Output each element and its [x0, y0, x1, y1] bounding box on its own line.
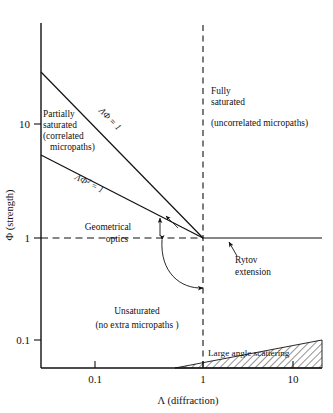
transition-curved-arrow — [162, 240, 203, 288]
y-tick-label-1: 1 — [25, 232, 31, 244]
partially-saturated-line4: micropaths) — [50, 142, 95, 153]
rytov-extension-annotation: Rytov extension — [229, 242, 271, 277]
y-tick-label-0: 10 — [19, 118, 31, 130]
y-tick-label-2: 0.1 — [16, 334, 30, 346]
partially-saturated-line1: Partially — [43, 109, 75, 119]
unsaturated-line2: (no extra micropaths ) — [95, 320, 178, 331]
lambda-phi-curve-label: ΛΦ = 1 — [96, 105, 123, 132]
geometrical-optics-line2: optics — [106, 234, 129, 244]
large-angle-scattering-label: Large angle scattering — [208, 348, 290, 358]
y-axis-title: Φ (strength) — [4, 189, 16, 241]
unsaturated-line1: Unsaturated — [114, 306, 160, 316]
fully-saturated-line1: Fully — [211, 86, 231, 96]
partially-saturated-line3: (correlated — [43, 131, 84, 142]
x-tick-label-1: 1 — [200, 373, 206, 385]
x-tick-label-0: 0.1 — [88, 373, 102, 385]
y-axis-ticks — [34, 124, 41, 340]
fully-saturated-label: Fully saturated (uncorrelated micropaths… — [211, 86, 308, 129]
lambda-phi-squared-curve-label: ΛΦ2 = 1 — [73, 171, 106, 195]
geometrical-optics-annotation: Geometrical optics — [85, 218, 160, 244]
chart-root: 0.1 1 10 10 1 0.1 Λ (diffraction) Φ (str… — [0, 0, 333, 413]
svg-text:ΛΦ2 = 1: ΛΦ2 = 1 — [73, 171, 106, 195]
svg-text:ΛΦ = 1: ΛΦ = 1 — [96, 105, 123, 132]
partially-saturated-label: Partially saturated (correlated micropat… — [43, 109, 95, 153]
rytov-extension-line2: extension — [235, 267, 271, 277]
rytov-extension-line1: Rytov — [235, 255, 258, 265]
geometrical-optics-line1: Geometrical — [85, 222, 132, 232]
fully-saturated-line3: (uncorrelated micropaths) — [211, 118, 308, 129]
convergence-pointer-arrow — [166, 216, 178, 228]
lambda-phi-equals-one-curve — [41, 72, 203, 238]
unsaturated-label: Unsaturated (no extra micropaths ) — [95, 306, 178, 331]
x-axis-title: Λ (diffraction) — [157, 395, 219, 407]
fully-saturated-line2: saturated — [211, 97, 245, 107]
rytov-extension-arrow — [229, 242, 237, 256]
x-tick-label-2: 10 — [288, 373, 300, 385]
regime-diagram-svg: 0.1 1 10 10 1 0.1 Λ (diffraction) Φ (str… — [0, 0, 333, 413]
axis-lines — [41, 23, 322, 368]
partially-saturated-line2: saturated — [43, 120, 77, 130]
curve2-label-eq: = 1 — [87, 179, 105, 195]
